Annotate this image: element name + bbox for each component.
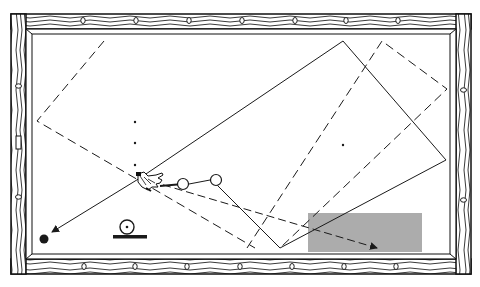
diamond-marker (185, 264, 189, 270)
diamond-marker (16, 195, 22, 199)
diamond-marker (290, 264, 294, 270)
diamond-marker (394, 264, 398, 270)
rail-notch (16, 136, 21, 149)
spot-dot (342, 144, 344, 146)
diamond-marker (461, 88, 467, 92)
table-svg (0, 0, 480, 287)
diamond-marker (16, 84, 22, 88)
diamond-marker (344, 18, 348, 24)
object-ball (211, 175, 222, 186)
diamond-marker (187, 18, 191, 24)
diamond-marker (81, 18, 85, 24)
diamond-marker (133, 264, 137, 270)
diamond-marker (134, 18, 138, 24)
rail-bar (113, 235, 147, 239)
diamond-marker (82, 264, 86, 270)
billiard-diagram (0, 0, 480, 287)
diamond-marker (396, 18, 400, 24)
spot-dot (134, 121, 136, 123)
spot-dot (134, 164, 136, 166)
diamond-marker (342, 264, 346, 270)
right-rail (456, 14, 471, 274)
diamond-marker (293, 18, 297, 24)
target-ball (40, 235, 49, 244)
diamond-marker (238, 264, 242, 270)
object-ball (178, 179, 189, 190)
diamond-marker (240, 18, 244, 24)
diamond-marker (461, 198, 467, 202)
spot-dot (134, 142, 136, 144)
ball-center-dot (126, 226, 129, 229)
